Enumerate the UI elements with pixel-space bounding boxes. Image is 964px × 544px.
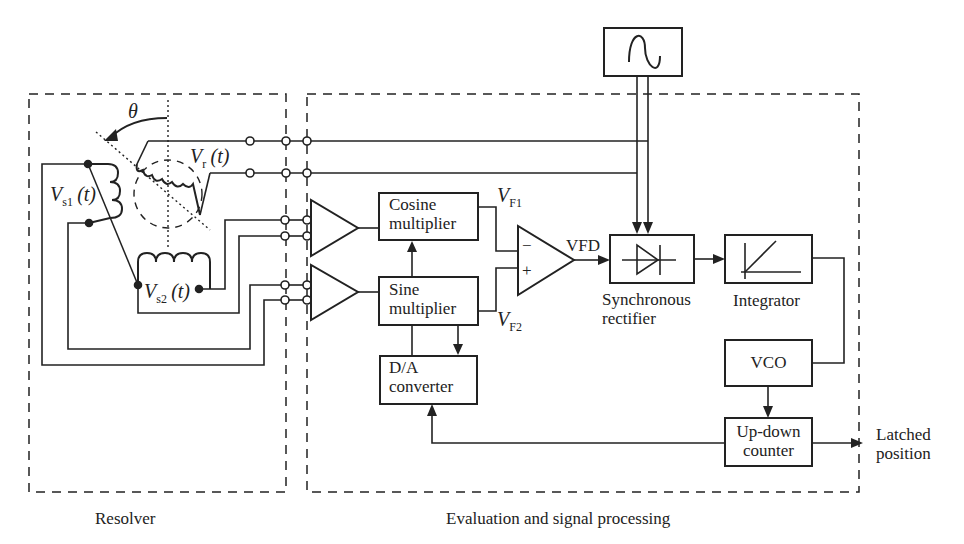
amplifier-cos xyxy=(311,200,358,256)
plus-sign: + xyxy=(522,261,532,280)
sync-rectifier-block xyxy=(610,235,694,283)
vf2-label: VF2 xyxy=(497,310,522,332)
vf1-label: VF1 xyxy=(497,186,522,208)
sync-rectifier-label: Synchronous rectifier xyxy=(602,290,691,328)
sine-wave-icon xyxy=(629,36,660,68)
integrator-block xyxy=(725,235,812,283)
amplifier-sin xyxy=(311,265,358,320)
ramp-icon xyxy=(741,241,801,279)
output-label: Latched position xyxy=(876,425,931,463)
vco-label: VCO xyxy=(725,353,812,372)
cosine-multiplier-label: Cosine multiplier xyxy=(389,195,456,233)
angle-label: θ xyxy=(128,102,138,121)
rotor-voltage-label: Vr (t) xyxy=(190,147,229,169)
up-down-counter-label: Up-down counter xyxy=(725,422,812,460)
sine-multiplier-label: Sine multiplier xyxy=(389,280,456,318)
vfd-label: VFD xyxy=(566,236,600,255)
da-converter-label: D/A converter xyxy=(389,358,453,396)
diagram-canvas xyxy=(0,0,964,544)
angle-arrow xyxy=(110,118,167,138)
stator1-voltage-label: Vs1 (t) xyxy=(50,185,96,207)
minus-sign: − xyxy=(522,236,532,255)
stator2-voltage-label: Vs2 (t) xyxy=(144,282,190,304)
resolver-group-label: Resolver xyxy=(95,509,155,528)
diode-icon xyxy=(622,245,676,275)
oscillator-block xyxy=(604,28,682,76)
evaluation-group-label: Evaluation and signal processing xyxy=(446,509,670,528)
integrator-label: Integrator xyxy=(733,291,800,310)
